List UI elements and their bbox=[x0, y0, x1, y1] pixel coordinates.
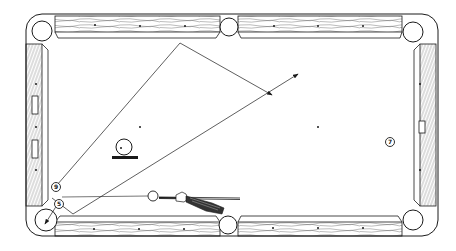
pocket-bottom-left bbox=[35, 209, 57, 231]
diamond bbox=[362, 25, 364, 27]
foot-spot bbox=[317, 126, 319, 128]
pocket-top-left bbox=[32, 21, 52, 41]
right-rail bbox=[414, 44, 436, 206]
diamond bbox=[184, 25, 186, 27]
diamond bbox=[94, 24, 96, 26]
rail-sight-plate bbox=[32, 96, 38, 114]
rail-sight-plate bbox=[419, 121, 425, 133]
pocket-top-middle bbox=[220, 18, 238, 36]
diamond bbox=[317, 227, 319, 229]
left-rail bbox=[26, 44, 48, 206]
top-left-rail bbox=[55, 16, 220, 38]
aim-line bbox=[62, 196, 148, 197]
pocket-bottom-middle bbox=[219, 216, 237, 234]
nine-ball: 9 bbox=[52, 183, 61, 192]
diamond bbox=[419, 83, 421, 85]
diamond bbox=[362, 227, 364, 229]
top-right-rail bbox=[238, 16, 402, 38]
diamond bbox=[419, 169, 421, 171]
diamond bbox=[183, 228, 185, 230]
pocket-top-right bbox=[403, 22, 423, 42]
diamond bbox=[138, 228, 140, 230]
diamond bbox=[93, 228, 95, 230]
head-spot bbox=[139, 126, 141, 128]
cue-stick bbox=[159, 197, 240, 200]
pool-table-diagram: 9 5 7 bbox=[0, 0, 456, 251]
pocket-bottom-right bbox=[403, 210, 423, 230]
five-ball-label: 5 bbox=[57, 200, 61, 207]
seven-ball-label: 7 bbox=[388, 138, 392, 145]
spin-indicator-ball bbox=[112, 139, 138, 159]
bottom-left-rail bbox=[55, 216, 220, 236]
nine-ball-label: 9 bbox=[54, 183, 58, 190]
cue-ball-path bbox=[52, 74, 298, 214]
shooter-hand-icon bbox=[176, 192, 224, 214]
bottom-right-rail bbox=[238, 216, 402, 236]
diamond bbox=[272, 227, 274, 229]
seven-ball: 7 bbox=[386, 138, 395, 147]
five-ball: 5 bbox=[55, 200, 64, 209]
diamond bbox=[273, 25, 275, 27]
rail-sight-plate bbox=[32, 140, 38, 158]
cue-ball bbox=[148, 191, 158, 201]
bank-path bbox=[57, 43, 272, 185]
diamond bbox=[35, 126, 37, 128]
diamond bbox=[35, 169, 37, 171]
diamond bbox=[35, 83, 37, 85]
diamond bbox=[139, 25, 141, 27]
table-frame bbox=[26, 14, 438, 236]
diamond bbox=[317, 25, 319, 27]
